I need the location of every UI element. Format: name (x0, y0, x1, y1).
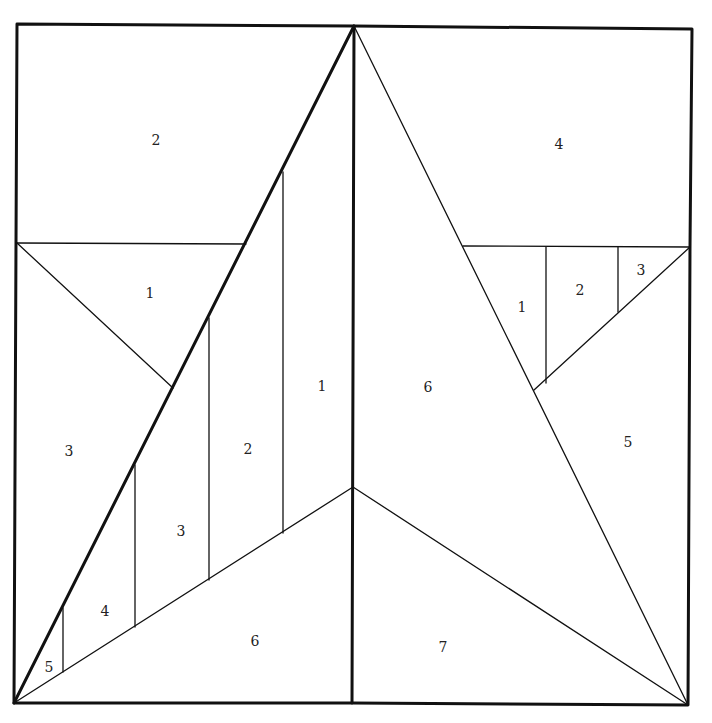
section-label: 4 (101, 603, 110, 619)
section-label: 5 (624, 434, 633, 450)
left-lower-diagonal (14, 487, 353, 703)
section-label: 1 (146, 285, 155, 301)
section-label: 6 (251, 633, 260, 649)
section-label: 2 (152, 132, 161, 148)
section-label: 2 (244, 441, 253, 457)
right-star-edge (354, 26, 688, 705)
section-label: 3 (637, 262, 646, 278)
section-label: 5 (45, 659, 54, 675)
section-label: 7 (439, 639, 448, 655)
center-seam (352, 26, 354, 703)
section-label: 6 (424, 379, 433, 395)
section-label: 1 (518, 299, 527, 315)
left-horizontal-seam (17, 243, 246, 244)
right-lower-diagonal (353, 487, 688, 705)
right-horizontal-seam (463, 246, 690, 247)
section-label: 4 (555, 136, 564, 152)
section-label: 1 (318, 378, 327, 394)
section-label: 2 (576, 282, 585, 298)
left-star-edge (14, 26, 354, 703)
quilt-pattern-diagram: 2 1 3 1 2 3 4 5 6 4 1 2 3 6 5 7 (0, 0, 712, 723)
section-label: 3 (177, 523, 186, 539)
right-triangle-diagonal (534, 247, 690, 390)
left-triangle-diagonal (17, 243, 173, 388)
section-label: 3 (65, 443, 74, 459)
